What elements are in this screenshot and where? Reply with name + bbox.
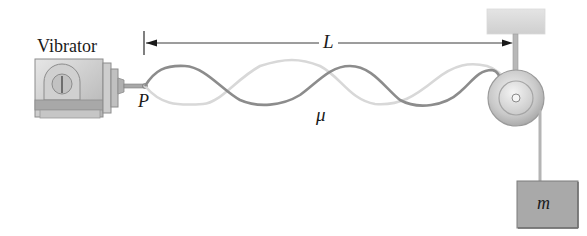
linear-density-label: μ: [316, 104, 326, 126]
hanging-rope: [539, 110, 542, 182]
string-wave-faint: [145, 60, 512, 105]
length-label: L: [319, 31, 338, 53]
pulley: [488, 70, 544, 126]
vibrator: [35, 59, 144, 118]
ceiling-support: [487, 9, 545, 34]
point-p-label: P: [138, 91, 149, 112]
diagram-canvas: Vibrator L P μ m: [0, 0, 587, 236]
mass-label: m: [537, 193, 550, 214]
vibrator-label: Vibrator: [37, 36, 97, 57]
